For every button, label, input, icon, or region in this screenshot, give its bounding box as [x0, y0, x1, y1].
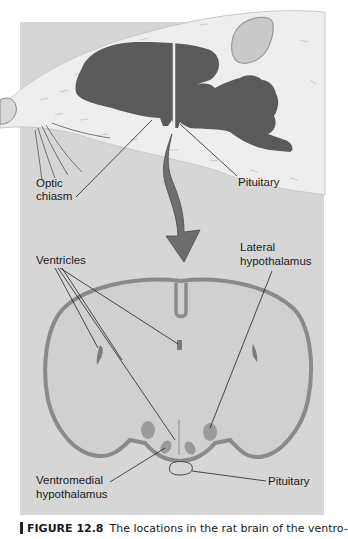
pituitary-gland [169, 462, 192, 476]
figure-caption: FIGURE 12.8The locations in the rat brai… [20, 522, 348, 535]
ventricles-label: Ventricles [36, 254, 86, 266]
lateral-hypothalamus-right [203, 423, 217, 441]
lateral-hypothalamus-label-2: hypothalamus [240, 255, 312, 267]
figure-number: FIGURE 12.8 [27, 522, 104, 535]
pituitary-label-top: Pituitary [238, 176, 280, 188]
ventromedial-label: Ventromedial [36, 474, 103, 486]
midline-fissure [176, 283, 186, 317]
pituitary-label-bottom: Pituitary [268, 475, 310, 487]
third-ventricle [177, 340, 182, 350]
caption-text: The locations in the rat brain of the ve… [110, 522, 348, 535]
ventromedial-label-2: hypothalamus [36, 488, 108, 500]
optic-chiasm-label-2: chiasm [36, 190, 72, 202]
lateral-hypothalamus-left [141, 421, 155, 439]
lateral-hypothalamus-label: Lateral [240, 241, 275, 253]
caption-bar [20, 522, 23, 534]
optic-chiasm-label: Optic [36, 177, 63, 189]
